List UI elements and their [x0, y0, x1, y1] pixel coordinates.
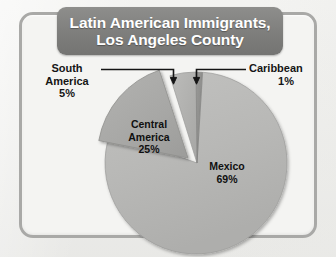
slice-label-mexico: Mexico 69% — [196, 160, 258, 185]
callout-south-america-line-1: South — [34, 62, 100, 75]
chart-title-banner: Latin American Immigrants, Los Angeles C… — [57, 7, 283, 55]
slice-label-mexico-name: Mexico — [196, 160, 258, 173]
callout-caribbean: Caribbean 1% — [249, 62, 333, 87]
slice-label-mexico-percent: 69% — [196, 173, 258, 186]
callout-south-america-line-2: America — [34, 75, 100, 88]
slice-label-central-america-percent: 25% — [113, 143, 185, 156]
callout-south-america: South America 5% — [34, 62, 100, 100]
slice-label-central-america-line-2: America — [113, 131, 185, 144]
callout-caribbean-name: Caribbean — [249, 62, 333, 75]
figure-root: Latin American Immigrants, Los Angeles C… — [0, 0, 336, 257]
slice-label-central-america: Central America 25% — [113, 118, 185, 156]
callout-caribbean-percent: 1% — [249, 75, 323, 88]
callout-south-america-percent: 5% — [34, 87, 100, 100]
chart-title-line-1: Latin American Immigrants, — [70, 14, 271, 31]
slice-label-central-america-line-1: Central — [113, 118, 185, 131]
chart-title-line-2: Los Angeles County — [96, 31, 243, 48]
